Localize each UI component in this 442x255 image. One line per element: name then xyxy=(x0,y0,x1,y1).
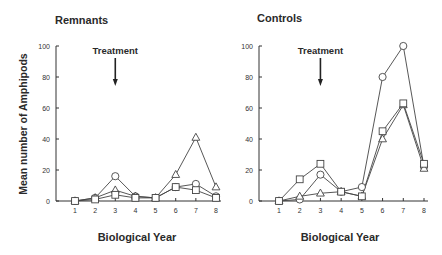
x-tick-label: 3 xyxy=(113,207,117,214)
data-point-square xyxy=(421,160,428,167)
data-point-square xyxy=(276,198,283,205)
x-tick-label: 6 xyxy=(174,207,178,214)
y-tick-label: 100 xyxy=(241,43,253,50)
data-point-triangle xyxy=(192,133,200,140)
x-axis-label: Biological Year xyxy=(98,231,177,243)
data-point-square xyxy=(400,100,407,107)
x-tick-label: 1 xyxy=(277,207,281,214)
data-point-square xyxy=(192,187,199,194)
panel-controls: ControlsBiological Year02040608010012345… xyxy=(241,12,428,243)
data-point-square xyxy=(72,198,79,205)
data-point-triangle xyxy=(172,170,180,177)
panel-remnants: RemnantsBiological Year02040608010012345… xyxy=(38,14,221,243)
data-point-triangle xyxy=(379,135,387,142)
y-tick-label: 20 xyxy=(245,167,253,174)
y-tick-label: 80 xyxy=(245,74,253,81)
series-line-triangle xyxy=(279,105,424,201)
chart-title: Remnants xyxy=(55,14,108,26)
x-tick-label: 6 xyxy=(381,207,385,214)
data-point-circle xyxy=(358,183,365,190)
chart-title: Controls xyxy=(257,12,302,24)
data-point-square xyxy=(358,193,365,200)
data-point-triangle xyxy=(317,189,325,196)
x-tick-label: 5 xyxy=(360,207,364,214)
data-point-square xyxy=(213,195,220,202)
data-point-square xyxy=(338,188,345,195)
x-tick-label: 1 xyxy=(73,207,77,214)
y-tick-label: 60 xyxy=(245,105,253,112)
treatment-arrow-head xyxy=(318,79,323,86)
treatment-arrow-head xyxy=(113,79,118,86)
data-point-square xyxy=(152,195,159,202)
x-tick-label: 2 xyxy=(93,207,97,214)
data-point-circle xyxy=(317,171,324,178)
data-point-triangle xyxy=(212,183,220,190)
data-point-square xyxy=(92,196,99,203)
data-point-circle xyxy=(112,173,119,180)
x-tick-label: 5 xyxy=(154,207,158,214)
data-point-circle xyxy=(400,42,407,49)
x-tick-label: 3 xyxy=(318,207,322,214)
data-point-square xyxy=(132,195,139,202)
data-point-square xyxy=(172,184,179,191)
data-point-square xyxy=(112,191,119,198)
x-tick-label: 4 xyxy=(133,207,137,214)
figure: Mean number of Amphipods RemnantsBiologi… xyxy=(0,0,442,255)
x-tick-label: 8 xyxy=(422,207,426,214)
y-tick-label: 0 xyxy=(249,198,253,205)
treatment-label: Treatment xyxy=(298,45,344,56)
data-point-square xyxy=(296,176,303,183)
y-tick-label: 100 xyxy=(38,43,50,50)
y-tick-label: 40 xyxy=(245,136,253,143)
data-point-square xyxy=(379,128,386,135)
data-point-circle xyxy=(379,73,386,80)
y-tick-label: 60 xyxy=(42,105,50,112)
treatment-label: Treatment xyxy=(93,45,139,56)
y-tick-label: 40 xyxy=(42,136,50,143)
x-tick-label: 4 xyxy=(339,207,343,214)
y-tick-label: 80 xyxy=(42,74,50,81)
y-tick-label: 20 xyxy=(42,167,50,174)
x-tick-label: 8 xyxy=(214,207,218,214)
y-axis-label: Mean number of Amphipods xyxy=(17,53,29,195)
x-axis-label: Biological Year xyxy=(301,231,380,243)
x-tick-label: 2 xyxy=(298,207,302,214)
series-line-square xyxy=(279,103,424,201)
data-point-square xyxy=(317,160,324,167)
x-tick-label: 7 xyxy=(401,207,405,214)
x-tick-label: 7 xyxy=(194,207,198,214)
y-tick-label: 0 xyxy=(46,198,50,205)
